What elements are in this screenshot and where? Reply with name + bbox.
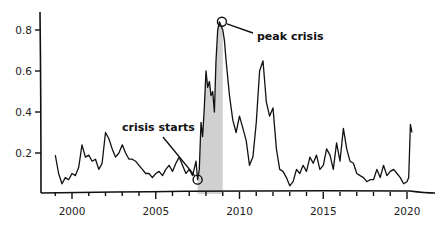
crisis-start-label: crisis starts bbox=[122, 121, 195, 134]
annotations: crisis startspeak crisis bbox=[122, 17, 324, 184]
axes bbox=[40, 12, 435, 193]
x-tick-label: 2020 bbox=[394, 205, 421, 217]
crisis-shaded-region bbox=[198, 22, 223, 194]
x-axis-ticks: 20002005201020152020 bbox=[55, 192, 420, 217]
chart: 0.20.40.60.8 20002005201020152020 crisis… bbox=[0, 0, 448, 225]
y-axis-line bbox=[40, 12, 41, 193]
peak-crisis-pointer bbox=[227, 24, 253, 33]
y-axis-ticks: 0.20.40.60.8 bbox=[15, 24, 41, 159]
shaded-area bbox=[198, 22, 223, 194]
x-tick-label: 2000 bbox=[59, 205, 86, 217]
y-tick-label: 0.8 bbox=[15, 24, 32, 36]
y-tick-label: 0.4 bbox=[15, 106, 32, 118]
x-tick-label: 2005 bbox=[142, 205, 169, 217]
crisis-start-pointer bbox=[163, 137, 195, 176]
x-axis-line bbox=[41, 191, 435, 193]
series-line bbox=[55, 22, 412, 186]
peak-crisis-label: peak crisis bbox=[257, 30, 324, 43]
y-tick-label: 0.2 bbox=[15, 147, 32, 159]
x-tick-label: 2010 bbox=[226, 205, 253, 217]
x-tick-label: 2015 bbox=[310, 205, 337, 217]
y-tick-label: 0.6 bbox=[15, 65, 32, 77]
